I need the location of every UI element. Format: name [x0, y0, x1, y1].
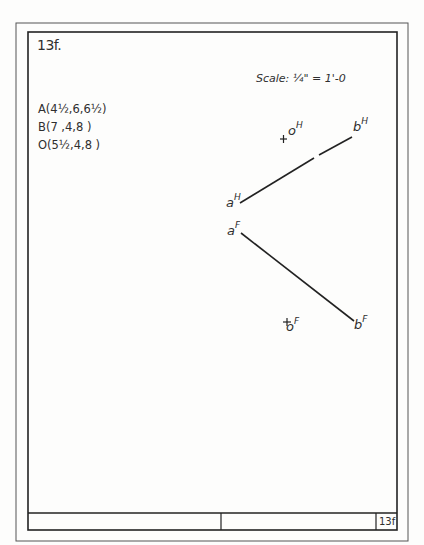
- given-point-a: A(4½,6,6½): [38, 100, 106, 118]
- drawing-canvas: [0, 0, 424, 545]
- point-o-horizontal-cross-icon: [280, 135, 287, 143]
- label-superscript: F: [362, 314, 367, 324]
- label-text: a: [226, 195, 234, 210]
- given-point-b: B(7 ,4,8 ): [38, 118, 106, 136]
- scale-label: Scale: ¼" = 1'-0: [256, 72, 346, 85]
- problem-id: 13f.: [37, 37, 61, 53]
- label-superscript: F: [294, 316, 299, 326]
- label-text: o: [286, 319, 294, 334]
- drawing-sheet: 13f. A(4½,6,6½) B(7 ,4,8 ) O(5½,4,8 ) Sc…: [0, 0, 424, 545]
- label-superscript: F: [235, 220, 240, 230]
- given-points-list: A(4½,6,6½) B(7 ,4,8 ) O(5½,4,8 ): [38, 100, 106, 154]
- label-superscript: H: [296, 120, 303, 130]
- label-b-horizontal: bH: [353, 118, 368, 134]
- label-o-frontal: oF: [286, 318, 299, 334]
- given-point-o: O(5½,4,8 ): [38, 136, 106, 154]
- line-ab-frontal: [241, 233, 354, 321]
- line-ab-horizontal-segment-1: [240, 158, 314, 203]
- line-ab-horizontal-segment-2: [319, 137, 352, 155]
- label-b-frontal: bF: [354, 316, 367, 332]
- label-text: o: [288, 123, 296, 138]
- label-a-frontal: aF: [227, 222, 240, 238]
- label-o-horizontal: oH: [288, 122, 303, 138]
- label-superscript: H: [361, 116, 368, 126]
- label-superscript: H: [234, 192, 241, 202]
- label-a-horizontal: aH: [226, 194, 241, 210]
- label-text: a: [227, 223, 235, 238]
- title-block-number: 13f: [379, 516, 395, 527]
